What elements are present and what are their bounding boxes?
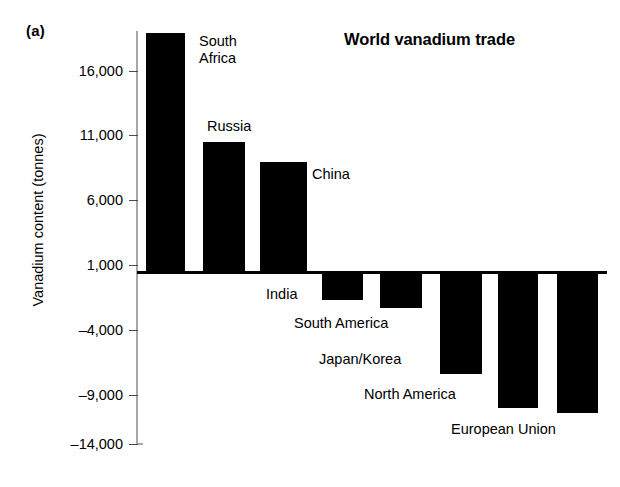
figure-panel-a: (a) World vanadium trade Vanadium conten… (0, 0, 620, 487)
y-axis-tick-label: –14,000 (3, 437, 123, 451)
bar (260, 162, 307, 272)
bar-label: Japan/Korea (319, 351, 401, 368)
bar-label: Russia (207, 118, 251, 135)
plot-area: 16,00011,0006,0001,000–4,000–9,000–14,00… (0, 0, 620, 487)
bar-label: North America (364, 386, 456, 403)
y-axis-tick (129, 135, 138, 137)
y-axis-tick (129, 265, 138, 267)
y-axis-tick-label: 11,000 (3, 128, 123, 142)
y-axis-tick (129, 330, 138, 332)
bar (440, 272, 482, 374)
y-axis-tick-label: 1,000 (3, 258, 123, 272)
bar-label: European Union (451, 421, 556, 438)
bar (380, 272, 422, 308)
y-axis-tick-label: –4,000 (3, 323, 123, 337)
bar (498, 272, 538, 408)
y-axis-tick-label: –9,000 (3, 388, 123, 402)
bar-label: South Africa (199, 33, 237, 67)
y-axis-tick-label: 16,000 (3, 64, 123, 78)
y-axis-tick (129, 444, 138, 446)
bar (146, 33, 185, 272)
bar (322, 272, 363, 300)
y-axis-spine (136, 31, 138, 445)
bar (203, 142, 245, 272)
bar-label: South America (294, 315, 388, 332)
bar-label: China (312, 166, 350, 183)
bar-label: India (266, 286, 297, 303)
y-axis-tick (129, 71, 138, 73)
y-axis-tick (129, 200, 138, 202)
y-axis-tick (129, 395, 138, 397)
bar (557, 272, 598, 413)
y-axis-tick-label: 6,000 (3, 193, 123, 207)
